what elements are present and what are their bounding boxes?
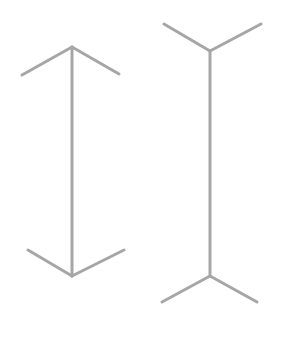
fin-line <box>72 250 124 276</box>
fin-line <box>210 276 257 302</box>
fin-line <box>210 24 261 51</box>
muller-lyer-diagram <box>0 0 298 337</box>
fin-line <box>162 276 210 302</box>
fin-line <box>164 24 210 51</box>
fin-line <box>22 47 72 75</box>
fin-line <box>28 250 72 276</box>
fin-line <box>72 47 119 74</box>
diagram-svg <box>0 0 298 337</box>
figure-arrowheads-outward <box>162 24 261 302</box>
figure-arrowheads-inward <box>22 47 124 276</box>
